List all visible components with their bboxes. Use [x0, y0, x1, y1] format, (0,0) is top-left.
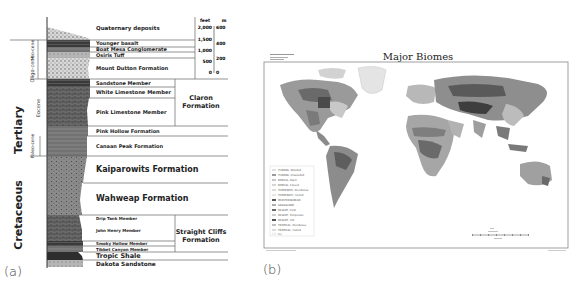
- scale-m-tick: 0: [216, 70, 219, 75]
- group-claron-line2: Formation: [182, 102, 220, 110]
- epoch-label-oligocene: Oligo-cene: [29, 56, 36, 83]
- map-legend: TUNDRA, Wooded TUNDRA, Unwooded BOREAL, …: [270, 166, 314, 236]
- biome-map-panel: Major Biomes: [258, 40, 578, 255]
- thickness-scale: feet m 2,000 1,500 1,000 500 0 600 400 2…: [198, 18, 227, 75]
- map-logo-icon: [270, 54, 294, 60]
- legend-item: TROPICAL, Deciduous: [278, 224, 307, 227]
- legend-item: GRASSLAND: [278, 204, 294, 207]
- map-title: Major Biomes: [383, 51, 453, 62]
- era-label-cretaceous: Cretaceous: [12, 180, 25, 250]
- scale-m-tick: 600: [216, 25, 225, 30]
- unit-white-limestone: White Limestone Member: [96, 89, 171, 95]
- scale-m-tick: 400: [216, 41, 225, 46]
- biome-map: Major Biomes: [258, 40, 578, 255]
- unit-canaan-peak: Canaan Peak Formation: [96, 143, 163, 149]
- unit-pink-hollow: Pink Hollow Formation: [96, 128, 160, 134]
- legend-item: BOREAL, Closed: [278, 184, 299, 187]
- scale-feet-tick: 2,000: [198, 25, 212, 30]
- unit-mount-dutton: Mount Dutton Formation: [96, 65, 169, 71]
- group-straight-cliffs-line1: Straight Cliffs: [176, 228, 227, 236]
- legend-item: TROPICAL, Humid: [278, 229, 301, 232]
- unit-wahweap: Wahweap Formation: [96, 194, 189, 203]
- unit-dakota-sandstone: Dakota Sandstone: [96, 261, 156, 267]
- era-label-tertiary: Tertiary: [12, 106, 25, 154]
- legend-item: TUNDRA, Unwooded: [278, 174, 305, 177]
- group-claron-line1: Claron: [189, 94, 213, 102]
- legend-item: TEMPERATE, Deciduous: [278, 189, 309, 192]
- unit-john-henry: John Henry Member: [95, 228, 141, 233]
- legend-item: DESERT, Temperate: [278, 214, 304, 217]
- unit-smoky-hollow: Smoky Hollow Member: [96, 241, 148, 246]
- scale-feet-tick: 500: [203, 59, 212, 64]
- unit-pink-limestone: Pink Limestone Member: [96, 109, 167, 115]
- scale-feet-tick: 0: [209, 70, 212, 75]
- scale-feet-label: feet: [200, 18, 211, 23]
- unit-osiris-tuff: Osiris Tuff: [96, 52, 125, 58]
- geologic-column-panel: Tertiary Cretaceous Mio-cene Oligo-cene …: [0, 0, 250, 285]
- scale-m-tick: 200: [216, 56, 225, 61]
- epoch-label-paleocene: Paleo-cene: [30, 133, 35, 158]
- legend-item: BOREAL, Open: [278, 179, 297, 182]
- panel-label-a: (a): [4, 264, 22, 279]
- lithology-column: [47, 27, 90, 267]
- panel-label-b: (b): [263, 262, 281, 277]
- geologic-column-diagram: Tertiary Cretaceous Mio-cene Oligo-cene …: [0, 0, 250, 285]
- unit-drip-tank: Drip Tank Member: [96, 216, 137, 221]
- unit-kaiparowits: Kaiparowits Formation: [96, 165, 199, 174]
- legend-item: DESERT, Cold: [278, 209, 296, 212]
- epoch-label-eocene: Eocene: [35, 99, 41, 117]
- unit-sandstone-member: Sandstone Member: [96, 80, 151, 86]
- scale-feet-tick: 1,500: [198, 37, 212, 42]
- legend-item: TUNDRA, Wooded: [278, 169, 301, 172]
- scale-feet-tick: 1,000: [198, 48, 212, 53]
- legend-item: Ice: [278, 233, 282, 236]
- unit-tropic-shale: Tropic Shale: [96, 252, 141, 260]
- scale-m-label: m: [222, 18, 227, 23]
- legend-item: DESERT, Hot: [278, 219, 294, 222]
- unit-quaternary: Quaternary deposits: [96, 25, 160, 32]
- group-straight-cliffs-line2: Formation: [182, 236, 220, 244]
- legend-item: TEMPERATE, Humid: [278, 194, 304, 197]
- legend-item: MEDITERRANEAN: [278, 199, 300, 202]
